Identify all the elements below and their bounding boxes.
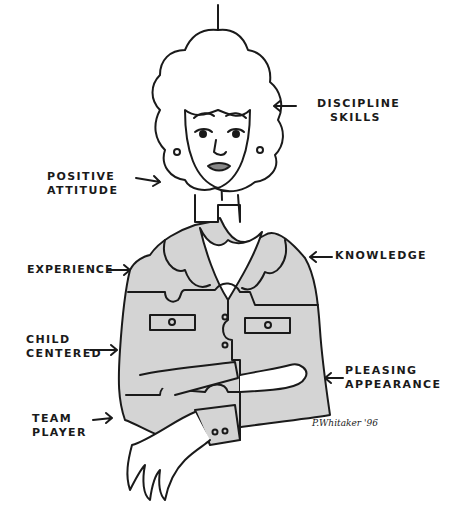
label-line: CENTERED bbox=[26, 347, 102, 361]
label-positive-attitude: POSITIVE ATTITUDE bbox=[47, 170, 118, 198]
label-line: KNOWLEDGE bbox=[335, 249, 427, 263]
label-line: DISCIPLINE bbox=[317, 97, 400, 111]
label-line: SKILLS bbox=[317, 111, 400, 125]
lips bbox=[208, 163, 230, 171]
label-line: EXPERIENCE bbox=[27, 263, 113, 277]
label-line: TEAM bbox=[32, 412, 87, 426]
label-line: CHILD bbox=[26, 333, 102, 347]
neck bbox=[195, 195, 240, 222]
label-pleasing-appearance: PLEASING APPEARANCE bbox=[345, 364, 441, 392]
label-knowledge: KNOWLEDGE bbox=[335, 249, 427, 263]
label-line: APPEARANCE bbox=[345, 378, 441, 392]
label-line: PLEASING bbox=[345, 364, 441, 378]
label-line: PLAYER bbox=[32, 426, 87, 440]
label-team-player: TEAM PLAYER bbox=[32, 412, 87, 440]
label-discipline-skills: DISCIPLINE SKILLS bbox=[317, 97, 400, 125]
label-line: POSITIVE bbox=[47, 170, 118, 184]
label-experience: EXPERIENCE bbox=[27, 263, 113, 277]
artist-signature: P.Whitaker '96 bbox=[312, 418, 378, 428]
label-child-centered: CHILD CENTERED bbox=[26, 333, 102, 361]
label-line: ATTITUDE bbox=[47, 184, 118, 198]
